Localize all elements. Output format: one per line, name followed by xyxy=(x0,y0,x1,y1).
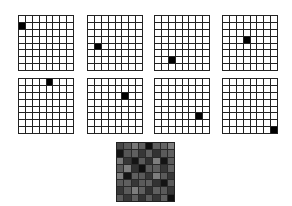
grid-cell xyxy=(136,37,142,43)
grid-cell xyxy=(67,86,73,92)
grid-cell xyxy=(122,16,128,22)
grid-cell xyxy=(271,23,277,29)
grid-cell xyxy=(162,127,168,133)
grid-cell xyxy=(203,57,209,63)
grid-cell xyxy=(67,44,73,50)
grid-cell xyxy=(176,50,182,56)
grid-cell xyxy=(88,100,94,106)
grid-cell xyxy=(33,113,39,119)
grid-cell xyxy=(88,93,94,99)
grid-cell xyxy=(251,127,257,133)
grid-cell xyxy=(264,30,270,36)
grid-cell xyxy=(47,57,53,63)
gray-cell xyxy=(146,195,152,201)
grid-cell xyxy=(26,120,32,126)
grid-cell xyxy=(155,57,161,63)
grid-cell xyxy=(136,23,142,29)
grid-cell xyxy=(109,57,115,63)
gray-cell xyxy=(139,150,145,156)
grid-cell xyxy=(223,127,229,133)
grid-cell xyxy=(257,127,263,133)
grid-cell xyxy=(95,120,101,126)
active-cell xyxy=(47,79,53,85)
grid-cell xyxy=(40,37,46,43)
grid-cell xyxy=(129,120,135,126)
grid-cell xyxy=(196,50,202,56)
gray-cell xyxy=(161,150,167,156)
grid-cell xyxy=(230,120,236,126)
grid-cell xyxy=(95,16,101,22)
grid-cell xyxy=(257,79,263,85)
grid-cell xyxy=(26,16,32,22)
grid-cell xyxy=(129,100,135,106)
grid-cell xyxy=(109,86,115,92)
gray-cell xyxy=(168,187,174,193)
grid-cell xyxy=(189,57,195,63)
grid-cell xyxy=(109,127,115,133)
grid-cell xyxy=(102,16,108,22)
grid-cell xyxy=(237,86,243,92)
grid-cell xyxy=(67,64,73,70)
grid-cell xyxy=(162,93,168,99)
grid-cell xyxy=(95,127,101,133)
grid-cell xyxy=(136,16,142,22)
grid-cell xyxy=(109,37,115,43)
grid-cell xyxy=(60,16,66,22)
grid-cell xyxy=(271,30,277,36)
grid-cell xyxy=(53,120,59,126)
grid-cell xyxy=(237,107,243,113)
grid-cell xyxy=(116,79,122,85)
gray-cell xyxy=(168,143,174,149)
grid-cell xyxy=(26,64,32,70)
gray-cell xyxy=(168,180,174,186)
grid-cell xyxy=(244,113,250,119)
grid-cell xyxy=(203,107,209,113)
grid-cell xyxy=(26,79,32,85)
grid-cell xyxy=(189,30,195,36)
gray-cell xyxy=(132,165,138,171)
grid-cell xyxy=(102,100,108,106)
grid-cell xyxy=(116,107,122,113)
grid-cell xyxy=(169,93,175,99)
grid-cell xyxy=(237,37,243,43)
grid-cell xyxy=(67,16,73,22)
grid-cell xyxy=(251,16,257,22)
grid-cell xyxy=(102,79,108,85)
grid-cell xyxy=(53,107,59,113)
one-hot-grid-5 xyxy=(18,78,74,134)
gray-cell xyxy=(117,195,123,201)
grid-cell xyxy=(264,16,270,22)
grid-cell xyxy=(40,100,46,106)
grid-cell xyxy=(237,57,243,63)
grid-cell xyxy=(264,23,270,29)
grid-cell xyxy=(88,127,94,133)
grid-cell xyxy=(116,120,122,126)
grid-cell xyxy=(203,86,209,92)
active-cell xyxy=(271,127,277,133)
grid-cell xyxy=(223,50,229,56)
grid-cell xyxy=(53,93,59,99)
grid-cell xyxy=(155,113,161,119)
grid-cell xyxy=(95,100,101,106)
grid-cell xyxy=(33,57,39,63)
grid-cell xyxy=(169,120,175,126)
grid-cell xyxy=(53,50,59,56)
gray-cell xyxy=(124,173,130,179)
grid-cell xyxy=(33,93,39,99)
grid-cell xyxy=(223,30,229,36)
grid-cell xyxy=(33,79,39,85)
grid-cell xyxy=(203,50,209,56)
grid-cell xyxy=(53,64,59,70)
gray-cell xyxy=(161,187,167,193)
gray-cell xyxy=(146,150,152,156)
one-hot-grid-2 xyxy=(87,15,143,71)
gray-cell xyxy=(117,158,123,164)
grid-cell xyxy=(203,23,209,29)
grid-cell xyxy=(122,44,128,50)
grid-cell xyxy=(60,120,66,126)
grid-cell xyxy=(67,107,73,113)
grid-cell xyxy=(196,44,202,50)
grid-cell xyxy=(67,100,73,106)
grid-cell xyxy=(196,79,202,85)
grid-cell xyxy=(47,86,53,92)
